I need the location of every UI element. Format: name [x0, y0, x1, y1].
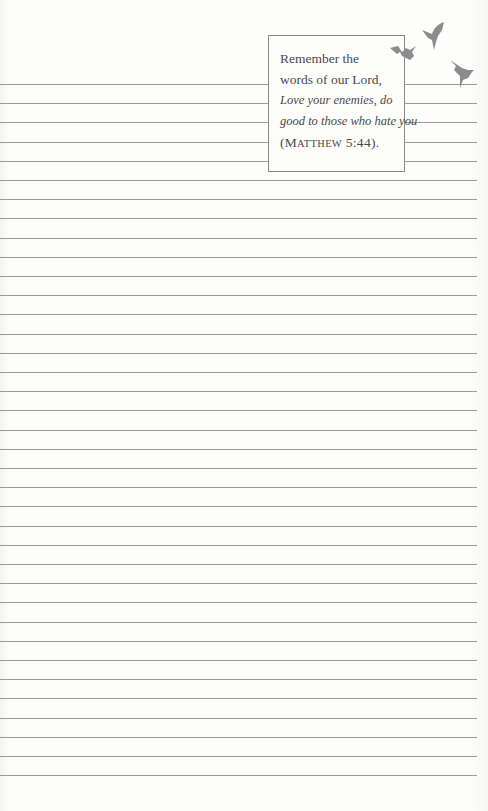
ruled-line	[405, 103, 477, 104]
ruled-line	[0, 506, 477, 507]
quote-reference: (MATTHEW 5:44).	[280, 132, 404, 154]
ruled-line	[0, 641, 477, 642]
ruled-line	[0, 430, 477, 431]
bird-icon	[448, 58, 476, 90]
bird-icon	[420, 20, 448, 54]
ruled-line	[0, 84, 268, 85]
ruled-line	[0, 295, 477, 296]
ruled-line	[0, 487, 477, 488]
quote-line-4: good to those who hate you	[280, 111, 404, 132]
ruled-line	[0, 276, 477, 277]
ruled-line	[0, 583, 477, 584]
scripture-quote-box: Remember the words of our Lord, Love you…	[268, 35, 405, 172]
ruled-line	[0, 142, 268, 143]
ruled-line	[0, 218, 477, 219]
ruled-line	[0, 660, 477, 661]
ruled-line	[0, 602, 477, 603]
ruled-line	[405, 161, 477, 162]
ruled-line	[0, 334, 477, 335]
ruled-line	[0, 737, 477, 738]
ruled-line	[405, 142, 477, 143]
ruled-line	[0, 698, 477, 699]
ruled-line	[0, 180, 477, 181]
ruled-line	[0, 238, 477, 239]
ruled-line	[0, 679, 477, 680]
ruled-line	[0, 199, 477, 200]
ruled-line	[0, 545, 477, 546]
ruled-line	[0, 526, 477, 527]
ruled-line	[0, 410, 477, 411]
ruled-line	[0, 314, 477, 315]
ruled-line	[0, 372, 477, 373]
ruled-line	[0, 622, 477, 623]
ruled-line	[0, 756, 477, 757]
ruled-line	[0, 353, 477, 354]
quote-line-3: Love your enemies, do	[280, 90, 404, 111]
ruled-line	[0, 449, 477, 450]
quote-line-2: words of our Lord,	[280, 69, 404, 90]
ruled-line	[0, 161, 268, 162]
journal-page: Remember the words of our Lord, Love you…	[0, 0, 488, 811]
ruled-line	[0, 103, 268, 104]
ruled-line	[0, 391, 477, 392]
ruled-line	[0, 564, 477, 565]
ruled-line	[0, 718, 477, 719]
ruled-line	[0, 122, 268, 123]
quote-line-1: Remember the	[280, 48, 404, 69]
ruled-line	[0, 468, 477, 469]
bird-icon	[388, 42, 418, 66]
ruled-line	[0, 257, 477, 258]
ruled-line	[0, 775, 477, 776]
